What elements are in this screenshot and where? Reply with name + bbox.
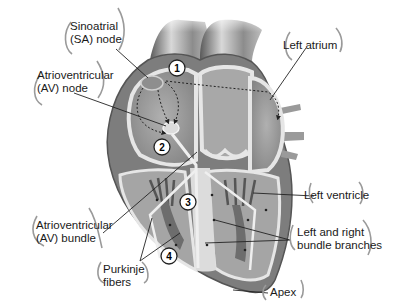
av-bundle-line2: (AV) bundle <box>36 232 113 245</box>
bundle-branches-line2: bundle branches <box>297 239 382 252</box>
bundle-branches-line1: Left and right <box>297 226 382 239</box>
av-bundle-line1: Atrioventricular <box>36 219 113 232</box>
label-av-node: Atrioventricular (AV) node <box>37 69 114 95</box>
sa-node <box>141 76 163 90</box>
label-bundle-branches: Left and right bundle branches <box>297 226 382 252</box>
label-apex: Apex <box>270 286 296 299</box>
svg-text:3: 3 <box>185 197 191 208</box>
left-ventricle-line1: Left ventricle <box>304 189 369 202</box>
marker-2: 2 <box>154 139 170 155</box>
av-node-line2: (AV) node <box>37 82 114 95</box>
svg-text:2: 2 <box>159 142 165 153</box>
apex-line1: Apex <box>270 286 296 299</box>
av-node-line1: Atrioventricular <box>37 69 114 82</box>
marker-3: 3 <box>180 194 196 210</box>
sa-node-line1: Sinoatrial <box>70 20 122 33</box>
svg-text:4: 4 <box>166 251 172 262</box>
label-left-atrium: Left atrium <box>283 39 337 52</box>
svg-text:1: 1 <box>174 63 180 74</box>
purkinje-line2: fibers <box>103 276 145 289</box>
label-sa-node: Sinoatrial (SA) node <box>70 20 122 46</box>
label-av-bundle: Atrioventricular (AV) bundle <box>36 219 113 245</box>
left-atrium-line1: Left atrium <box>283 39 337 52</box>
great-vessels <box>140 10 270 62</box>
sa-node-line2: (SA) node <box>70 33 122 46</box>
label-left-ventricle: Left ventricle <box>304 189 369 202</box>
marker-1: 1 <box>169 60 185 76</box>
purkinje-line1: Purkinje <box>103 263 145 276</box>
label-purkinje: Purkinje fibers <box>103 263 145 289</box>
marker-4: 4 <box>161 248 177 264</box>
av-node <box>163 122 179 134</box>
